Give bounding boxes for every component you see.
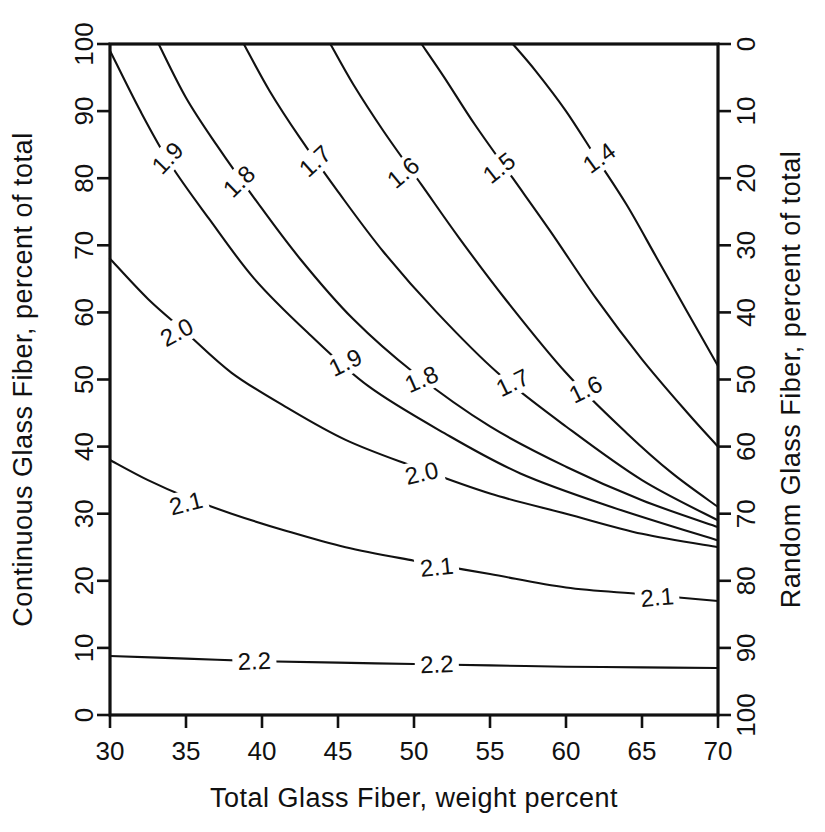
contour-label-group-item: 2.2 — [232, 647, 277, 676]
contour-chart: 1.41.51.61.61.71.71.81.81.91.92.02.02.12… — [0, 0, 825, 832]
contour-line-1.7 — [244, 44, 718, 520]
y2-tick-label: 90 — [731, 633, 761, 662]
contour-label: 2.2 — [420, 650, 454, 678]
contour-label-group-item: 2.1 — [413, 551, 460, 582]
contour-label-group-item: 2.0 — [397, 455, 446, 491]
y2-tick-label: 80 — [731, 566, 761, 595]
y-tick-label: 60 — [69, 298, 99, 327]
contour-label: 2.0 — [402, 456, 441, 490]
y2-tick-label: 10 — [731, 97, 761, 126]
contour-plot-svg: 1.41.51.61.61.71.71.81.81.91.92.02.02.12… — [0, 0, 825, 832]
contour-label-group-item: 1.9 — [142, 133, 192, 183]
y-tick-label: 50 — [69, 365, 99, 394]
y-tick-label: 0 — [69, 708, 99, 722]
y-axis-right: 0102030405060708090100 — [718, 37, 761, 737]
y2-tick-label: 30 — [731, 231, 761, 260]
y2-tick-label: 0 — [731, 37, 761, 51]
contour-label-group-item: 1.7 — [487, 361, 538, 405]
y2-tick-label: 50 — [731, 365, 761, 394]
y-axis-right-title: Random Glass Fiber, percent of total — [776, 151, 806, 609]
x-tick-label: 70 — [704, 736, 733, 766]
y-tick-label: 20 — [69, 566, 99, 595]
x-tick-label: 55 — [476, 736, 505, 766]
contour-label: 2.1 — [419, 552, 455, 582]
y-tick-label: 30 — [69, 499, 99, 528]
contour-label-group-item: 1.6 — [378, 148, 429, 197]
x-axis-title: Total Glass Fiber, weight percent — [210, 783, 618, 813]
contour-lines-group — [110, 44, 718, 668]
contour-line-1.4 — [513, 44, 718, 366]
contour-label: 2.1 — [639, 582, 675, 612]
contour-label-group-item: 1.7 — [289, 136, 340, 186]
contour-label-group-item: 2.2 — [414, 650, 459, 679]
x-tick-label: 65 — [628, 736, 657, 766]
y-axis-left: 0102030405060708090100 — [69, 22, 110, 722]
y-tick-label: 80 — [69, 164, 99, 193]
y-tick-label: 100 — [69, 22, 99, 65]
y-tick-label: 70 — [69, 231, 99, 260]
contour-labels-group: 1.41.51.61.61.71.71.81.81.91.92.02.02.12… — [142, 133, 680, 679]
contour-line-1.8 — [159, 44, 718, 527]
x-tick-label: 50 — [400, 736, 429, 766]
contour-label-group-item: 1.4 — [573, 134, 624, 182]
contour-label-group-item: 2.1 — [634, 582, 680, 613]
x-tick-label: 35 — [172, 736, 201, 766]
x-axis: 303540455055606570 — [96, 715, 733, 766]
contour-label-group-item: 1.8 — [214, 156, 264, 206]
y2-tick-label: 60 — [731, 432, 761, 461]
y-tick-label: 40 — [69, 432, 99, 461]
y2-tick-label: 70 — [731, 499, 761, 528]
contour-label-group-item: 2.0 — [151, 310, 203, 354]
contour-line-2.2 — [110, 656, 718, 668]
y-tick-label: 90 — [69, 97, 99, 126]
x-tick-label: 30 — [96, 736, 125, 766]
contour-label: 2.2 — [237, 647, 271, 675]
y2-tick-label: 100 — [731, 693, 761, 736]
y-tick-label: 10 — [69, 633, 99, 662]
x-tick-label: 45 — [324, 736, 353, 766]
contour-line-1.6 — [330, 44, 718, 507]
contour-label-group-item: 1.9 — [320, 340, 371, 384]
y-axis-left-title: Continuous Glass Fiber, percent of total — [8, 132, 38, 626]
y2-tick-label: 40 — [731, 298, 761, 327]
x-tick-label: 40 — [248, 736, 277, 766]
x-tick-label: 60 — [552, 736, 581, 766]
y2-tick-label: 20 — [731, 164, 761, 193]
